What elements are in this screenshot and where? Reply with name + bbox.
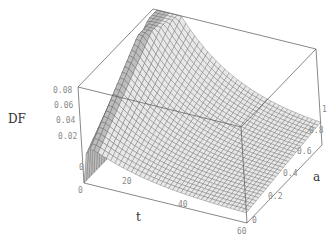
z-tick-0.04: 0.04	[56, 116, 75, 125]
y-tick-0.4: 0.4	[283, 169, 298, 178]
y-tick-0.8: 0.8	[309, 126, 324, 135]
x-tick-60: 60	[237, 227, 247, 236]
x-axis-label: t	[136, 210, 141, 224]
z-tick-0.02: 0.02	[58, 132, 77, 141]
x-tick-0: 0	[78, 186, 83, 195]
x-tick-20: 20	[122, 177, 132, 186]
y-tick-0.6: 0.6	[297, 147, 312, 156]
z-tick-0: 0	[79, 163, 84, 172]
z-tick-0.08: 0.08	[53, 86, 72, 95]
y-tick-0: 0	[252, 216, 257, 225]
x-tick-40: 40	[178, 200, 188, 209]
y-tick-0.2: 0.2	[268, 192, 283, 201]
surface-plot: 0.08 0.06 0.04 0.02 0 0 20 40 60 0 0.2 0…	[0, 0, 335, 236]
y-axis-label: a	[313, 170, 320, 184]
y-tick-1: 1	[322, 105, 327, 114]
z-tick-0.06: 0.06	[54, 101, 73, 110]
z-axis-label: DF	[8, 112, 26, 126]
surface-mesh	[84, 10, 321, 213]
